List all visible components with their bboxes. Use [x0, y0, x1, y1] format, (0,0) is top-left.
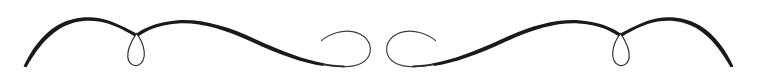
background-rect [0, 0, 757, 79]
ornament-canvas: Ornamental Flourish Divider [0, 0, 757, 79]
flourish-divider-graphic [0, 0, 757, 79]
